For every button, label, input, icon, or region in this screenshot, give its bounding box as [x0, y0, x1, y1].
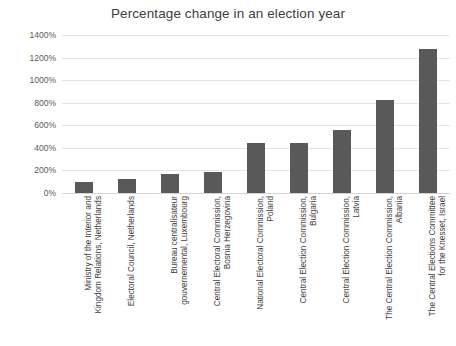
x-tick: Bureau centralisateur gouvernemental, Lu…: [148, 196, 191, 344]
x-tick: Electoral Council, Netherlands: [105, 196, 148, 344]
gridline: [62, 58, 450, 59]
x-tick-label: The Central Elections Committee for the …: [428, 196, 448, 342]
x-tick: The Central Election Commission, Albania: [364, 196, 407, 344]
chart-title: Percentage change in an election year: [0, 6, 456, 21]
plot-area: [62, 35, 450, 193]
x-tick-label: The Central Election Commission, Albania: [385, 196, 405, 342]
x-tick-label: Bureau centralisateur gouvernemental, Lu…: [170, 196, 190, 342]
bar[interactable]: [333, 130, 351, 193]
bar[interactable]: [75, 182, 93, 193]
x-tick-label: Electoral Council, Netherlands: [127, 196, 137, 342]
x-tick-label: Ministry of the Interior and Kingdom Rel…: [84, 196, 104, 342]
y-tick-label: 1400%: [0, 30, 56, 40]
bar[interactable]: [376, 100, 394, 193]
x-tick: Central Electoral Commission, Bosnia Her…: [191, 196, 234, 344]
x-tick: The Central Elections Committee for the …: [407, 196, 450, 344]
bar[interactable]: [204, 172, 222, 193]
x-tick: National Electoral Commission, Poland: [234, 196, 277, 344]
bar[interactable]: [247, 143, 265, 193]
y-tick-label: 1000%: [0, 75, 56, 85]
x-tick-label: Central Election Commission, Latvia: [342, 196, 362, 342]
x-tick-label: Central Electoral Commission, Bosnia Her…: [213, 196, 233, 342]
x-tick: Ministry of the Interior and Kingdom Rel…: [62, 196, 105, 344]
x-axis: Ministry of the Interior and Kingdom Rel…: [62, 196, 450, 344]
bar[interactable]: [161, 174, 179, 193]
y-tick-label: 800%: [0, 98, 56, 108]
y-tick-label: 400%: [0, 143, 56, 153]
bar[interactable]: [118, 179, 136, 193]
x-tick-label: National Electoral Commission, Poland: [256, 196, 276, 342]
y-tick-label: 1200%: [0, 53, 56, 63]
gridline: [62, 35, 450, 36]
bar[interactable]: [419, 49, 437, 193]
x-tick-label: Central Election Commission, Bulgaria: [299, 196, 319, 342]
x-tick: Central Election Commission, Bulgaria: [278, 196, 321, 344]
bar-chart: Percentage change in an election year 14…: [0, 0, 456, 346]
y-tick-label: 600%: [0, 120, 56, 130]
gridline: [62, 193, 450, 194]
y-tick-label: 200%: [0, 165, 56, 175]
y-axis: 1400%1200%1000%800%600%400%200%0%: [0, 35, 56, 193]
gridline: [62, 80, 450, 81]
x-tick: Central Election Commission, Latvia: [321, 196, 364, 344]
bar[interactable]: [290, 143, 308, 193]
y-tick-label: 0%: [0, 188, 56, 198]
